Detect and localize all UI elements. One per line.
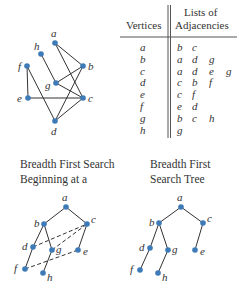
- tree-vertex-label-g: g: [172, 243, 178, 255]
- tree-vertex-b: [156, 220, 162, 226]
- vertex-cell: h: [140, 124, 146, 136]
- vertex-cell: g: [140, 112, 146, 124]
- tree-edge-b-g: [159, 223, 168, 250]
- bfs-vertex-e: [75, 247, 81, 253]
- adjacency-cell: c: [177, 88, 182, 100]
- graph-vertex-b: [80, 63, 86, 69]
- bfs-vertex-f: [22, 266, 28, 272]
- bfs-vertex-a: [63, 204, 69, 210]
- bfs-caption-line1: Breadth First Search: [20, 158, 115, 170]
- bfs-vertex-label-b: b: [34, 217, 40, 229]
- bfs-diagram: Breadth First Search Beginning at a abcd…: [14, 158, 115, 283]
- graph-vertex-label-c: c: [88, 92, 93, 104]
- tree-vertex-label-h: h: [162, 271, 168, 283]
- adjacency-cell: e: [177, 100, 182, 112]
- adjacency-cell: b: [177, 41, 183, 53]
- adjacency-cell: e: [209, 65, 214, 77]
- tree-vertex-label-f: f: [130, 263, 135, 275]
- bfs-edge-b-g: [44, 224, 52, 250]
- table-row: badg: [140, 53, 215, 65]
- bfs-edge-a-c: [66, 207, 87, 224]
- adjacency-cell: b: [177, 112, 183, 124]
- tree-edge-a-b: [159, 207, 181, 223]
- undirected-graph: abcdefgh: [17, 27, 94, 137]
- table-row: hg: [140, 124, 183, 136]
- adjacency-cell: c: [192, 41, 197, 53]
- graph-edge-e-f: [27, 66, 28, 98]
- vertex-cell: f: [140, 100, 145, 112]
- bfs-vertex-label-f: f: [14, 262, 19, 274]
- bfs-vertex-h: [40, 270, 46, 276]
- adjacency-cell: d: [192, 53, 198, 65]
- graph-vertex-c: [80, 95, 86, 101]
- tree-vertex-a: [178, 204, 184, 210]
- tree-edge-a-c: [181, 207, 203, 223]
- tree-vertex-c: [200, 220, 206, 226]
- tree-vertex-h: [155, 270, 161, 276]
- bfs-cross-edge-f-e: [25, 250, 78, 269]
- vertex-cell: d: [140, 76, 146, 88]
- tree-caption-line2: Search Tree: [150, 173, 205, 185]
- table-body: abcbadgcadegdcbfecffedgbchhg: [140, 41, 232, 136]
- graph-vertex-h: [38, 51, 44, 57]
- tree-vertex-label-c: c: [207, 212, 212, 224]
- adjacency-cell: f: [209, 76, 214, 88]
- bfs-vertex-d: [30, 244, 36, 250]
- graph-vertex-f: [24, 63, 30, 69]
- graph-edge-a-b: [55, 43, 83, 66]
- adjacency-cell: b: [192, 76, 198, 88]
- graph-vertex-a: [52, 40, 58, 46]
- bfs-vertex-label-e: e: [83, 245, 88, 257]
- graph-vertex-label-h: h: [34, 40, 40, 52]
- tree-caption-line1: Breadth First: [150, 158, 211, 170]
- bfs-tree-diagram: Breadth First Search Tree abcdgefh: [130, 158, 212, 283]
- bfs-vertex-label-d: d: [22, 240, 28, 252]
- vertex-cell: a: [140, 41, 146, 53]
- tree-edge-g-h: [158, 250, 168, 273]
- header-lists-line2: Adjacencies: [175, 19, 229, 31]
- tree-vertex-f: [137, 267, 143, 273]
- adjacency-cell: h: [209, 112, 215, 124]
- adjacency-cell: c: [192, 112, 197, 124]
- tree-vertex-d: [147, 245, 153, 251]
- tree-vertex-label-a: a: [177, 191, 183, 203]
- tree-vertex-label-d: d: [139, 241, 145, 253]
- table-row: dcbf: [140, 76, 214, 88]
- table-row: cadeg: [140, 65, 232, 77]
- adjacency-cell: c: [177, 76, 182, 88]
- graph-vertex-label-f: f: [18, 60, 23, 72]
- graph-edge-d-f: [27, 66, 55, 121]
- bfs-edge-g-h: [43, 250, 52, 273]
- adjacency-cell: g: [226, 65, 232, 77]
- graph-vertex-g: [53, 80, 59, 86]
- graph-edge-c-d: [55, 98, 83, 121]
- graph-vertex-label-g: g: [45, 79, 51, 91]
- bfs-vertex-label-a: a: [62, 191, 68, 203]
- vertex-cell: c: [140, 65, 145, 77]
- bfs-graph: abcdgefh: [14, 191, 96, 283]
- tree-vertex-g: [165, 247, 171, 253]
- bfs-vertex-c: [84, 221, 90, 227]
- graph-vertex-d: [52, 118, 58, 124]
- bfs-vertex-label-c: c: [91, 213, 96, 225]
- graph-vertex-label-b: b: [88, 60, 94, 72]
- adjacency-cell: d: [192, 65, 198, 77]
- table-row: gbch: [140, 112, 215, 124]
- table-row: fed: [140, 100, 198, 112]
- tree-vertex-label-e: e: [200, 245, 205, 257]
- adjacency-cell: g: [209, 53, 215, 65]
- bfs-vertex-label-g: g: [56, 243, 62, 255]
- vertex-cell: b: [140, 53, 146, 65]
- adjacency-cell: d: [192, 100, 198, 112]
- graph-vertex-label-a: a: [51, 27, 57, 39]
- bfs-tree-graph: abcdgefh: [130, 191, 212, 283]
- header-lists-line1: Lists of: [184, 6, 218, 18]
- bfs-vertex-label-h: h: [47, 271, 53, 283]
- tree-vertex-e: [192, 247, 198, 253]
- adjacency-cell: g: [177, 124, 183, 136]
- tree-vertex-label-b: b: [149, 216, 155, 228]
- adjacency-table: Vertices Lists of Adjacencies abcbadgcad…: [120, 5, 237, 138]
- bfs-vertex-g: [49, 247, 55, 253]
- adjacency-cell: f: [192, 88, 197, 100]
- header-vertices: Vertices: [126, 19, 161, 31]
